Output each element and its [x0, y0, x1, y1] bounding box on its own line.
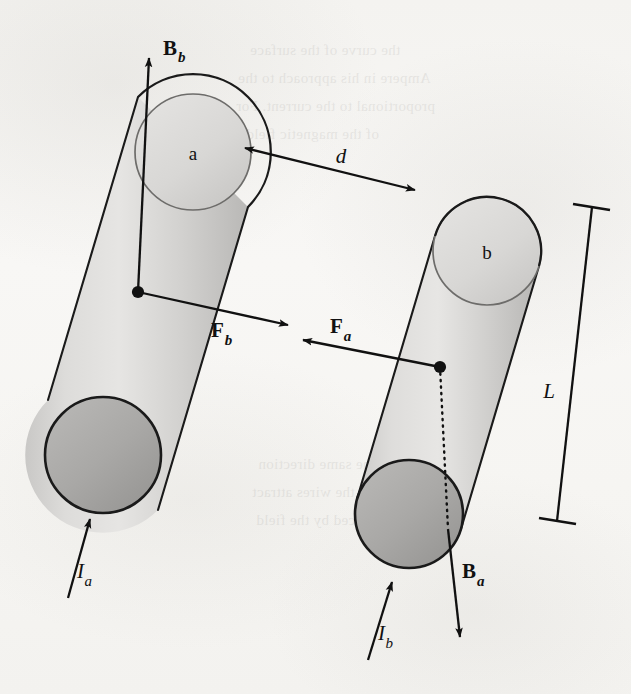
F-a-label-main: F — [330, 314, 343, 338]
wire-b-cap-label: b — [482, 242, 492, 263]
B-b-label-main: B — [163, 36, 177, 60]
wire-a: a — [25, 74, 271, 533]
F-a-label: Fa — [330, 314, 352, 344]
physics-figure: the curve of the surfaceAmpere in his ap… — [0, 0, 631, 694]
F-a-label-sub: a — [344, 328, 352, 344]
wire-a-cap-label: a — [189, 143, 198, 164]
I-a-label-sub: a — [85, 573, 93, 589]
wire-b: b — [355, 197, 541, 568]
B-a-label: Ba — [462, 559, 485, 589]
F-b-label-sub: b — [225, 332, 233, 348]
F-b-label: Fb — [211, 318, 233, 348]
wire-a-bottom-cap — [45, 397, 161, 513]
B-a-label-main: B — [462, 559, 476, 583]
field-point-wire-a — [132, 286, 144, 298]
dimension-L: L — [539, 204, 610, 524]
F-b-label-main: F — [211, 318, 224, 342]
diagram-canvas: a b d L Bb — [0, 0, 631, 694]
I-a-label: Ia — [76, 559, 92, 589]
L-label: L — [542, 379, 555, 403]
I-b-label: Ib — [377, 621, 394, 651]
B-b-label-sub: b — [178, 49, 186, 65]
L-extension-line — [557, 207, 592, 521]
B-b-label: Bb — [163, 36, 186, 65]
d-label: d — [336, 144, 347, 168]
current-I-b: Ib — [368, 582, 394, 660]
field-point-wire-b — [434, 361, 446, 373]
I-b-label-sub: b — [386, 635, 394, 651]
wire-b-bottom-cap — [355, 460, 463, 568]
d-arrow-line — [245, 148, 415, 190]
B-a-label-sub: a — [477, 573, 485, 589]
